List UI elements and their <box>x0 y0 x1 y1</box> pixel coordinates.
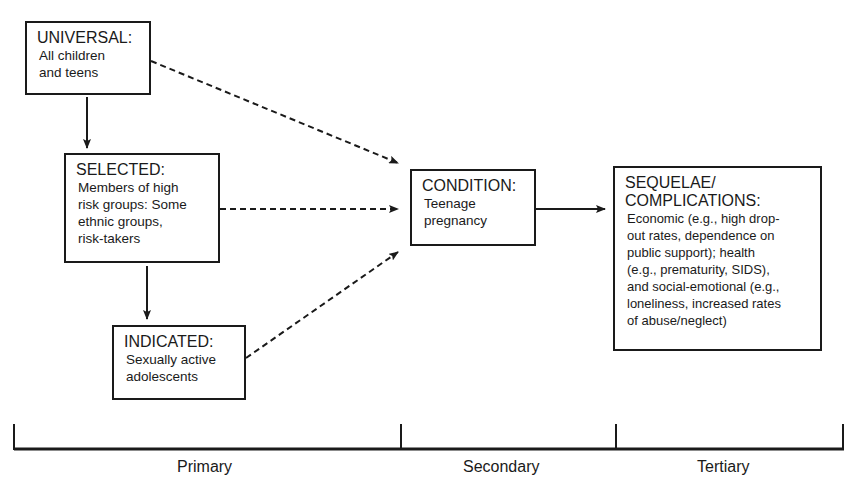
node-title: SELECTED: <box>76 161 210 179</box>
node-body: Economic (e.g., high drop- out rates, de… <box>625 210 812 329</box>
node-universal: UNIVERSAL: All children and teens <box>25 21 151 95</box>
timeline-label-primary: Primary <box>177 458 232 476</box>
node-body: Members of high risk groups: Some ethnic… <box>76 179 210 247</box>
node-indicated: INDICATED: Sexually active adolescents <box>112 325 246 400</box>
node-title: UNIVERSAL: <box>37 29 141 47</box>
node-title: SEQUELAE/ COMPLICATIONS: <box>625 174 812 210</box>
dashed-arrow-indicated-to-condition <box>246 252 398 358</box>
node-body: Teenage pregnancy <box>422 195 526 229</box>
dashed-arrow-universal-to-condition <box>151 61 398 163</box>
prevention-timeline <box>14 424 844 450</box>
node-title: CONDITION: <box>422 177 526 195</box>
node-condition: CONDITION: Teenage pregnancy <box>410 169 536 246</box>
node-body: All children and teens <box>37 47 141 81</box>
node-body: Sexually active adolescents <box>124 351 236 385</box>
node-title: INDICATED: <box>124 333 236 351</box>
timeline-label-secondary: Secondary <box>463 458 540 476</box>
node-sequelae: SEQUELAE/ COMPLICATIONS: Economic (e.g.,… <box>613 166 822 351</box>
timeline-label-tertiary: Tertiary <box>697 458 749 476</box>
node-selected: SELECTED: Members of high risk groups: S… <box>64 153 220 263</box>
